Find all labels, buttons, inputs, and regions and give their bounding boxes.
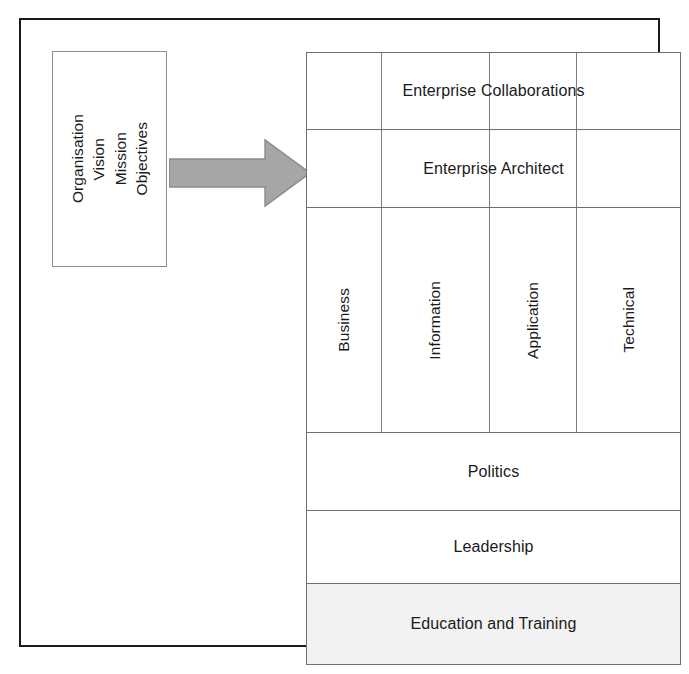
band-label-leadership: Leadership [453, 538, 533, 556]
band-label-enterprise-collaborations: Enterprise Collaborations [402, 82, 584, 100]
pillar-application: Application [489, 208, 576, 432]
band-enterprise-architect: Enterprise Architect [307, 130, 680, 208]
pillar-label-application: Application [524, 282, 542, 359]
pillar-information: Information [381, 208, 489, 432]
drivers-line-objectives: Objectives [132, 122, 152, 195]
figure-outer-frame: Organisation Vision Mission Objectives E… [19, 18, 660, 647]
pillar-business: Business [307, 208, 381, 432]
pillar-label-business: Business [335, 288, 353, 352]
ea-framework-grid: Enterprise Collaborations Enterprise Arc… [306, 52, 681, 665]
pillar-label-technical: Technical [620, 287, 638, 353]
drivers-line-vision: Vision [89, 138, 109, 181]
pillar-label-information: Information [426, 281, 444, 360]
drivers-line-organisation: Organisation [68, 114, 88, 203]
organisation-drivers-box: Organisation Vision Mission Objectives [52, 51, 167, 267]
band-label-politics: Politics [468, 463, 519, 481]
band-education-and-training: Education and Training [307, 584, 680, 664]
band-leadership: Leadership [307, 511, 680, 584]
pillar-technical: Technical [576, 208, 682, 432]
flow-arrow-icon [169, 137, 311, 209]
band-label-education-and-training: Education and Training [411, 615, 577, 633]
band-label-enterprise-architect: Enterprise Architect [423, 160, 564, 178]
pillars-band: Business Information Application Technic… [307, 208, 680, 433]
diagram-canvas: Organisation Vision Mission Objectives E… [0, 0, 689, 674]
organisation-drivers-text-group: Organisation Vision Mission Objectives [68, 114, 152, 203]
band-enterprise-collaborations: Enterprise Collaborations [307, 53, 680, 130]
band-politics: Politics [307, 433, 680, 511]
drivers-line-mission: Mission [111, 132, 131, 185]
